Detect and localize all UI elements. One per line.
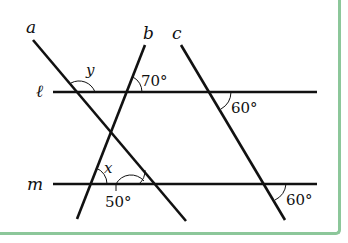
label-line-a: a (26, 17, 36, 37)
label-angle-70: 70° (141, 72, 168, 90)
label-angle-50: 50° (105, 193, 132, 211)
label-line-l: ℓ (36, 81, 43, 101)
label-angle-60-l: 60° (231, 99, 258, 117)
label-angle-y: y (85, 61, 95, 79)
angle-arc-60-m (275, 184, 286, 200)
angle-arc-60-l (221, 92, 231, 109)
label-line-b: b (143, 23, 154, 43)
label-line-c: c (172, 23, 182, 43)
label-line-m: m (27, 174, 43, 194)
label-angle-60-m: 60° (286, 191, 313, 209)
parallel-lines-diagram: a b c ℓ m y 70° 60° x 50° 60° (0, 0, 348, 243)
line-c (181, 45, 285, 220)
label-angle-x: x (104, 159, 113, 177)
